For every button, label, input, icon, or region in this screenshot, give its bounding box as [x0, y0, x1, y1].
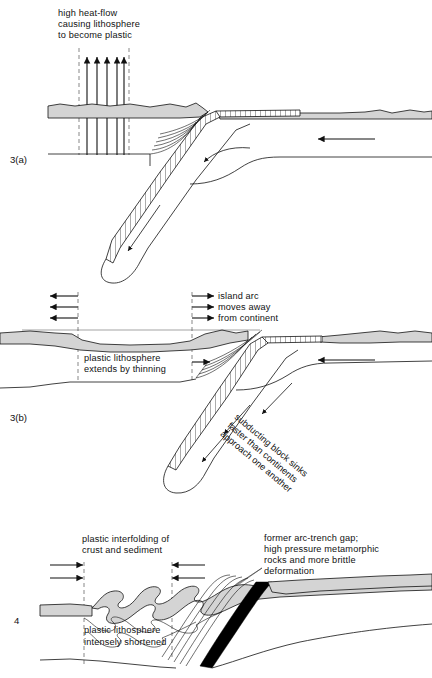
panel-number-3b: 3(b) — [10, 412, 27, 423]
figure-canvas: high heat-flow causing lithosphere to be… — [0, 0, 432, 678]
panel-4: plastic interfolding of crust and sedime… — [14, 533, 432, 668]
panel-number-3a: 3(a) — [10, 154, 27, 165]
lithosphere-base-4 — [40, 659, 176, 668]
heatflow-label-line2: causing lithosphere — [58, 19, 140, 29]
interfolding-label-line1: plastic interfolding of — [82, 534, 170, 544]
subducting-slab-3a — [216, 110, 300, 117]
arctrench-label-line1: former arc-trench gap; — [264, 533, 358, 543]
shortened-label-line2: intensely shortened — [84, 637, 167, 647]
continental-crust-left-3a — [48, 103, 208, 118]
lithosphere-base-right-3b — [236, 361, 432, 390]
arctrench-label-line4: deformation — [264, 566, 314, 576]
islandarc-label-line2: moves away — [218, 302, 271, 312]
shortened-label-line1: plastic lithosphere — [84, 625, 160, 635]
arctrench-label-line3: rocks and more brittle — [264, 555, 356, 565]
continental-crust-right-3b — [318, 331, 432, 343]
subducting-slab-descending-3a — [106, 111, 220, 263]
islandarc-label-line1: island arc — [218, 291, 259, 301]
panel-number-4: 4 — [14, 615, 20, 626]
interfolding-label-line2: crust and sediment — [82, 545, 163, 555]
lithosphere-base-right-3a — [190, 157, 432, 184]
islandarc-arrows — [192, 296, 214, 318]
islandarc-label-line3: from continent — [218, 313, 279, 323]
heatflow-label-line1: high heat-flow — [58, 8, 118, 18]
arctrench-label-line2: high pressure metamorphic — [264, 544, 379, 554]
heatflow-label-line3: to become plastic — [58, 30, 132, 40]
lithosphere-base-right-4 — [212, 624, 432, 668]
panel-3a: high heat-flow causing lithosphere to be… — [10, 8, 432, 283]
flat-crust-left-4 — [40, 604, 92, 616]
shortening-arrows-left — [50, 565, 83, 578]
mantle-flow-arrow-3a — [204, 148, 250, 162]
panel-3b: island arc moves away from continent — [0, 291, 432, 496]
oceanic-slab-horiz-3b — [262, 336, 322, 343]
shortening-arrows-right — [172, 565, 205, 578]
slab-back-edge-3a — [148, 124, 250, 248]
lithosphere-base-left-3b — [0, 379, 196, 388]
thinned-crust-3b — [0, 330, 248, 352]
plastic-lithosphere-label-line2: extends by thinning — [84, 364, 166, 374]
plastic-lithosphere-label-line1: plastic lithosphere — [84, 353, 160, 363]
subducting-block-label: subducting block sinks faster than conti… — [219, 412, 310, 496]
extension-arrows-3b — [50, 296, 78, 318]
geology-diagram-svg: high heat-flow causing lithosphere to be… — [0, 0, 432, 678]
